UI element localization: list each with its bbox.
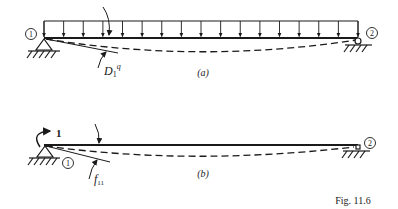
node-1-label-a: 1 [26, 29, 37, 40]
panel-b-label: (b) [197, 168, 209, 180]
deflection-label-a: D1q [103, 62, 121, 79]
load-arrows [42, 21, 360, 38]
figure-11-6: 1 2 D1q (a) [0, 0, 398, 209]
figure-caption: Fig. 11.6 [335, 195, 370, 206]
svg-text:2: 2 [368, 139, 372, 148]
panel-b: 1 1 2 f11 (b) [28, 124, 376, 187]
roller-support-right-a [344, 38, 372, 52]
distributed-load [42, 21, 360, 38]
deflected-shape-b [46, 146, 354, 156]
pin-support-left-a [27, 39, 60, 58]
panel-a: 1 2 D1q (a) [26, 7, 378, 79]
node-2-label-a: 2 [367, 28, 378, 39]
svg-text:1: 1 [66, 159, 70, 168]
moment-label-b: 1 [56, 127, 62, 139]
deflected-shape-a [46, 39, 356, 52]
deflection-label-b: f11 [94, 172, 105, 187]
panel-a-label: (a) [197, 67, 209, 79]
svg-text:2: 2 [370, 29, 374, 38]
node-2-label-b: 2 [365, 138, 376, 149]
svg-text:1: 1 [29, 30, 33, 39]
pointer-arrow-top-b [95, 124, 99, 143]
pin-support-left-b [28, 146, 60, 165]
node-1-label-b: 1 [63, 158, 74, 169]
